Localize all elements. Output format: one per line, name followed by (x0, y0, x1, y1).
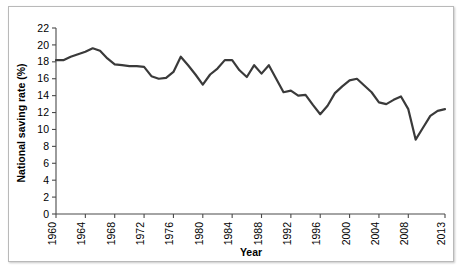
x-tick-label: 1984 (222, 222, 234, 246)
y-tick-label: 16 (37, 72, 49, 84)
y-tick-label: 12 (37, 106, 49, 118)
y-tick-label: 8 (43, 140, 49, 152)
x-tick-label: 2000 (340, 222, 352, 246)
x-tick-label: 1968 (105, 222, 117, 246)
x-tick-label: 2013 (435, 222, 447, 246)
x-tick-label: 1980 (193, 222, 205, 246)
y-tick-label: 10 (37, 123, 49, 135)
y-tick-label: 18 (37, 55, 49, 67)
x-tick-label: 1960 (46, 222, 58, 246)
x-tick-label: 1992 (281, 222, 293, 246)
y-tick-label: 20 (37, 39, 49, 51)
saving-rate-series-line (56, 48, 445, 139)
x-tick-label: 2004 (369, 222, 381, 246)
line-chart: National saving rate (%) 024681012141618… (9, 7, 453, 261)
y-tick-label: 4 (43, 174, 49, 186)
y-tick-label: 0 (43, 208, 49, 220)
chart-figure: National saving rate (%) 024681012141618… (0, 0, 462, 274)
x-axis-title: Year (240, 246, 262, 258)
y-tick-label: 6 (43, 157, 49, 169)
x-tick-label: 2008 (398, 222, 410, 246)
x-tick-label: 1996 (310, 222, 322, 246)
x-tick-label: 1964 (75, 222, 87, 246)
y-tick-label: 14 (37, 89, 49, 101)
y-tick-label: 2 (43, 191, 49, 203)
y-axis-title: National saving rate (%) (15, 63, 27, 182)
chart-frame: National saving rate (%) 024681012141618… (8, 6, 454, 262)
x-tick-label: 1988 (252, 222, 264, 246)
y-axis-ticks: 0246810121416182022 (37, 22, 56, 220)
x-tick-label: 1972 (134, 222, 146, 246)
x-tick-label: 1976 (163, 222, 175, 246)
x-axis-ticks: 1960196419681972197619801984198819921996… (46, 214, 447, 245)
y-tick-label: 22 (37, 22, 49, 34)
